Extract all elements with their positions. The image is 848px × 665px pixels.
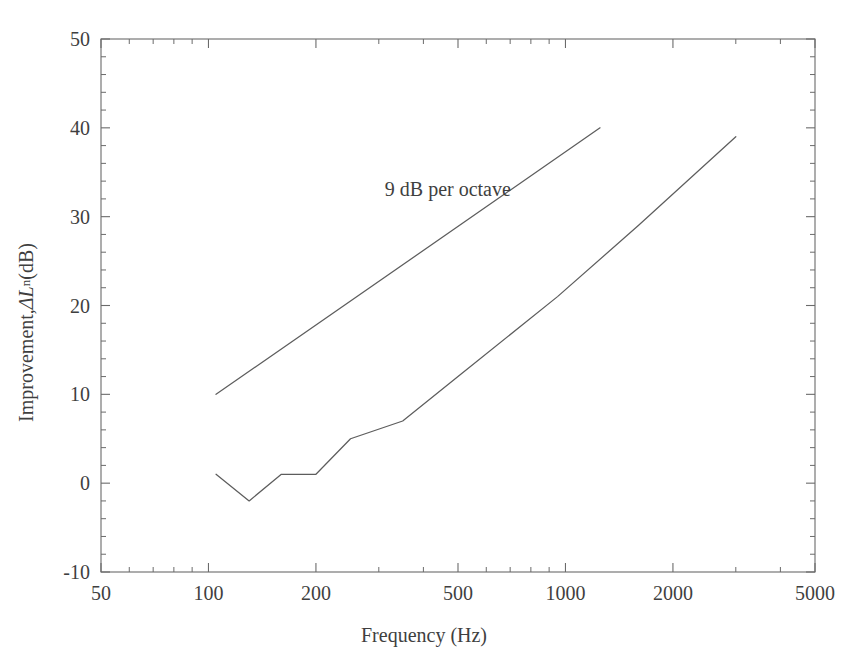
y-axis-title-subscript: n [18,280,34,287]
x-tick-label: 1000 [545,582,585,605]
x-tick-label: 100 [193,582,223,605]
x-tick-label: 50 [91,582,111,605]
x-tick-label: 2000 [653,582,693,605]
figure-root: -1001020304050 50100200500100020005000 F… [0,0,848,665]
x-tick-label: 500 [443,582,473,605]
x-tick-label: 200 [301,582,331,605]
y-axis-title: Improvement, ΔLn (dB) [8,0,44,665]
x-axis-title: Frequency (Hz) [0,624,848,647]
annotation-slope-label: 9 dB per octave [385,178,511,201]
plot-canvas [0,0,848,665]
y-axis-title-unit: (dB) [15,243,38,280]
x-tick-label: 5000 [795,582,835,605]
figure-background [0,0,848,665]
y-axis-title-prefix: Improvement, [15,309,38,422]
y-axis-title-symbol: ΔL [15,286,38,309]
